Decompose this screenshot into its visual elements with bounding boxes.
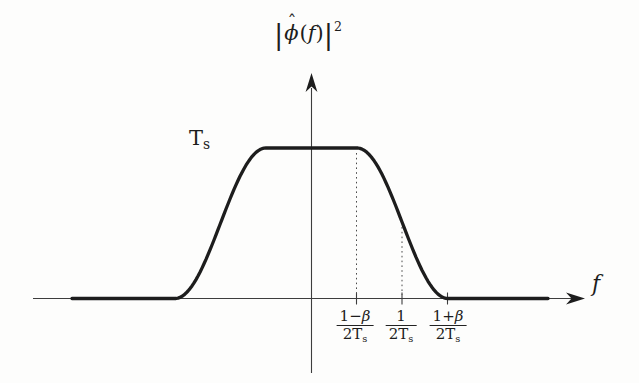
squared-exponent: 2 <box>334 19 342 34</box>
denominator: 2Ts <box>430 325 467 344</box>
left-bar: | <box>274 18 283 51</box>
frequency-argument: f <box>308 21 316 45</box>
denominator: 2Ts <box>337 325 374 344</box>
plot-canvas <box>0 0 639 383</box>
raised-cosine-spectrum-figure: |ˆϕ(f)|2 Ts f 1−β 2Ts 1 2Ts 1+β 2Ts <box>0 0 639 383</box>
x-axis-label: f <box>592 271 600 296</box>
spectrum-curve <box>72 148 548 299</box>
numerator: 1−β <box>337 308 374 325</box>
denominator: 2Ts <box>386 325 417 344</box>
peak-subscript: s <box>203 136 210 152</box>
tick-label-1-minus-beta: 1−β 2Ts <box>337 308 374 344</box>
peak-symbol: T <box>189 126 203 150</box>
left-paren: ( <box>300 21 308 45</box>
y-axis-title: |ˆϕ(f)|2 <box>256 18 360 51</box>
tick-label-half-symbol-rate: 1 2Ts <box>386 308 417 344</box>
peak-value-label: Ts <box>189 126 210 152</box>
tick-label-1-plus-beta: 1+β 2Ts <box>430 308 467 344</box>
phi-hat-symbol: ˆϕ <box>284 21 298 45</box>
right-bar: | <box>324 18 333 51</box>
hat-accent: ˆ <box>288 12 297 33</box>
numerator: 1+β <box>430 308 467 325</box>
right-paren: ) <box>316 21 324 45</box>
numerator: 1 <box>386 308 417 325</box>
